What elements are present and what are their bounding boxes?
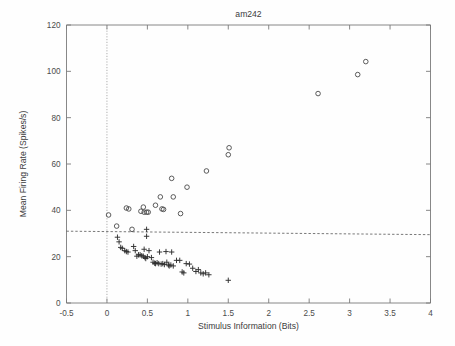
data-point-plus (198, 270, 203, 275)
x-tick-label-4: 1.5 (223, 309, 235, 318)
y-tick-label-6: 120 (47, 21, 61, 30)
data-point-plus (116, 239, 121, 244)
data-point-plus (201, 271, 206, 276)
data-point-plus (146, 248, 151, 253)
x-tick-label-1: 0 (105, 309, 110, 318)
data-point-plus (141, 247, 146, 252)
y-tick-label-0: 0 (56, 299, 61, 308)
data-point-circle (355, 72, 360, 77)
data-point-circle (226, 152, 231, 157)
data-point-circle (106, 213, 111, 218)
x-tick-label-9: 4 (428, 309, 433, 318)
y-tick-label-4: 80 (51, 114, 61, 123)
series-above-threshold-circles (106, 59, 368, 231)
data-point-circle (114, 224, 119, 229)
x-tick-label-2: 0.5 (142, 309, 154, 318)
x-tick-label-5: 2 (266, 309, 271, 318)
y-tick-label-2: 40 (51, 206, 61, 215)
data-point-plus (163, 249, 168, 254)
data-point-circle (227, 145, 232, 150)
axes-group (67, 25, 431, 303)
data-point-plus (115, 235, 120, 240)
data-point-circle (171, 195, 176, 200)
data-point-circle (153, 203, 158, 208)
scatter-plot: -0.500.511.522.533.54020406080100120am24… (0, 0, 455, 346)
data-point-circle (185, 185, 190, 190)
x-tick-label-0: -0.5 (59, 309, 74, 318)
series-below-threshold-plus (115, 227, 231, 283)
data-point-plus (171, 263, 176, 268)
y-tick-label-3: 60 (51, 160, 61, 169)
data-point-circle (316, 91, 321, 96)
y-axis-title: Mean Firing Rate (Spikes/s) (18, 111, 28, 218)
x-tick-label-7: 3 (347, 309, 352, 318)
data-point-circle (363, 59, 368, 64)
data-point-circle (141, 205, 146, 210)
y-tick-label-1: 20 (51, 253, 61, 262)
plot-title: am242 (235, 9, 261, 19)
plot-frame (67, 25, 431, 303)
axis-labels-group: -0.500.511.522.533.54020406080100120am24… (18, 9, 433, 331)
data-point-plus (144, 234, 149, 239)
data-points-group (106, 59, 368, 283)
x-tick-label-8: 3.5 (384, 309, 396, 318)
y-tick-label-5: 100 (47, 67, 61, 76)
data-point-plus (144, 227, 149, 232)
data-point-circle (158, 195, 163, 200)
data-point-plus (157, 249, 162, 254)
data-point-plus (187, 261, 192, 266)
x-axis-title: Stimulus Information (Bits) (198, 321, 299, 331)
data-point-plus (190, 266, 195, 271)
data-point-plus (177, 258, 182, 263)
figure-container: -0.500.511.522.533.54020406080100120am24… (0, 0, 455, 346)
data-point-plus (149, 255, 154, 260)
data-point-plus (169, 249, 174, 254)
data-point-plus (226, 278, 231, 283)
reference-lines-group (67, 25, 431, 303)
data-point-circle (169, 176, 174, 181)
threshold-line (67, 231, 431, 234)
data-point-circle (204, 169, 209, 174)
data-point-circle (178, 211, 183, 216)
x-tick-label-3: 1 (186, 309, 191, 318)
x-tick-label-6: 2.5 (303, 309, 315, 318)
data-point-circle (130, 227, 135, 232)
